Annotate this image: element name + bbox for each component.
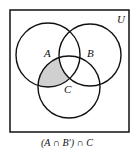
universe-label: U [117, 13, 126, 25]
venn-diagram: U A B C (A ∩ B′) ∩ C [0, 0, 135, 151]
caption: (A ∩ B′) ∩ C [41, 137, 93, 149]
set-a-label: A [43, 47, 51, 59]
set-b-label: B [87, 47, 94, 59]
set-c-label: C [64, 83, 72, 95]
